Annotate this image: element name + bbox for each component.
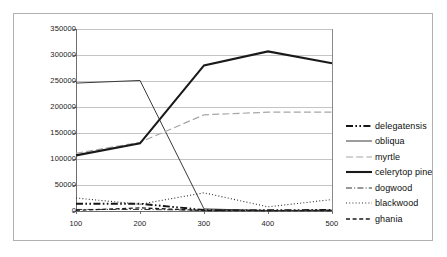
legend-item-label: blackwood <box>372 198 418 208</box>
legend-item-dogwood[interactable]: dogwood <box>346 180 447 196</box>
legend-item-delegatensis[interactable]: delegatensis <box>346 118 447 134</box>
chart-frame: 0500001000001500002000002500003000003500… <box>13 13 433 241</box>
legend-line-swatch-icon <box>346 182 372 194</box>
legend-item-myrtle[interactable]: myrtle <box>346 149 447 165</box>
x-axis-tick-label: 300 <box>184 220 224 228</box>
legend-item-label: myrtle <box>372 152 400 162</box>
legend-item-label: delegatensis <box>372 121 427 131</box>
legend-item-label: celerytop pine <box>372 167 432 177</box>
legend-line-swatch-icon <box>346 135 372 147</box>
legend-line-swatch-icon <box>346 197 372 209</box>
x-axis-tick-label: 400 <box>248 220 288 228</box>
legend-item-label: dogwood <box>372 183 412 193</box>
legend-line-swatch-icon <box>346 213 372 225</box>
legend-item-blackwood[interactable]: blackwood <box>346 196 447 212</box>
legend-line-swatch-icon <box>346 120 372 132</box>
legend-item-label: ghania <box>372 214 403 224</box>
legend-line-swatch-icon <box>346 151 372 163</box>
legend-item-ghania[interactable]: ghania <box>346 211 447 227</box>
legend-item-label: obliqua <box>372 136 405 146</box>
x-axis-tick-label: 100 <box>56 220 96 228</box>
chart-legend: delegatensisobliquamyrtlecelerytop pined… <box>346 118 447 227</box>
x-axis-tick-label: 200 <box>120 220 160 228</box>
legend-item-obliqua[interactable]: obliqua <box>346 134 447 150</box>
legend-item-celerytop-pine[interactable]: celerytop pine <box>346 165 447 181</box>
legend-line-swatch-icon <box>346 166 372 178</box>
